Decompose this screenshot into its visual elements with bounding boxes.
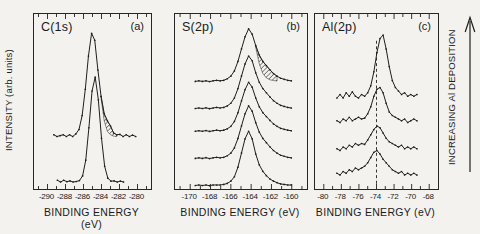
figure-canvas: INTENSITY (arb. units) C(1s) (a) -290-28… [0, 0, 480, 234]
hatch-region-a [101, 96, 117, 136]
tick-label: -170 [182, 192, 197, 201]
tick-label: -284 [93, 192, 108, 201]
tick-label: -280 [129, 192, 144, 201]
series-s2 [194, 55, 292, 109]
tick-label: -160 [283, 192, 298, 201]
panel-s2p: S(2p) (b) [174, 13, 308, 190]
panel-title-al2p: Al(2p) [322, 20, 357, 34]
tick-label: -288 [57, 192, 72, 201]
x-tick-labels-al2p: -80-78-76-74-72-70-68 [314, 192, 437, 202]
tick-label: -282 [111, 192, 126, 201]
c1s-spectra-plot [34, 14, 151, 189]
series-s1 [53, 32, 137, 137]
series-s1 [194, 28, 292, 82]
tick-label: -164 [243, 192, 258, 201]
tick-label: -74 [370, 192, 381, 201]
s2p-spectra-plot [175, 14, 307, 189]
tick-label: -76 [352, 192, 363, 201]
panel-al2p: Al(2p) (c) [314, 13, 439, 190]
x-tick-labels-s2p: -170-168-166-164-162-160 [174, 192, 306, 202]
x-axis-title-c1s: BINDING ENERGY (eV) [33, 206, 150, 230]
panel-letter-a: (a) [131, 20, 144, 32]
series-s2 [57, 76, 125, 183]
panel-c1s: C(1s) (a) [33, 13, 152, 190]
tick-label: -162 [263, 192, 278, 201]
x-axis-title-al2p: BINDING ENERGY (eV) [314, 206, 437, 218]
tick-label: -168 [202, 192, 217, 201]
panel-title-c1s: C(1s) [41, 20, 73, 34]
up-arrow-icon [463, 15, 477, 175]
panel-letter-b: (b) [287, 20, 300, 32]
tick-label: -80 [317, 192, 328, 201]
tick-label: -290 [39, 192, 54, 201]
panel-letter-c: (c) [418, 20, 431, 32]
tick-label: -78 [335, 192, 346, 201]
panel-title-s2p: S(2p) [182, 20, 214, 34]
series-s4 [194, 105, 292, 159]
axis-ticks-a [39, 14, 147, 189]
x-axis-title-s2p: BINDING ENERGY (eV) [174, 206, 306, 218]
tick-label: -72 [388, 192, 399, 201]
tick-label: -70 [405, 192, 416, 201]
y-axis-label: INTENSITY (arb. units) [3, 13, 14, 188]
x-tick-labels-c1s: -290-288-286-284-282-280 [33, 192, 150, 202]
al2p-spectra-plot [315, 14, 438, 189]
tick-label: -68 [423, 192, 434, 201]
al-deposition-label: INCREASING Al DEPOSITION [446, 13, 457, 181]
hatch-region-b [256, 46, 277, 81]
tick-label: -286 [75, 192, 90, 201]
tick-label: -166 [222, 192, 237, 201]
axis-ticks-c [324, 14, 429, 189]
series-s3 [194, 81, 292, 132]
